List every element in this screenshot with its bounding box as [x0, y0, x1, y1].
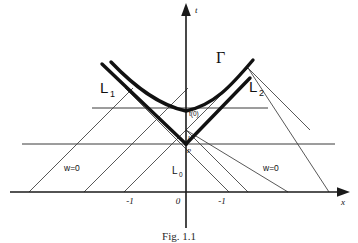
gamma-curve: [111, 60, 253, 111]
t-axis-arrowhead: [181, 3, 191, 16]
p-label: P: [186, 147, 191, 154]
tick-label-origin: 0: [176, 196, 181, 206]
l0-label-subscript: 0: [179, 171, 183, 178]
figure-caption: Fig. 1.1: [162, 230, 196, 242]
gamma-label: Γ: [216, 49, 225, 66]
axes: [10, 3, 350, 228]
characteristic-line-falling-4: [248, 68, 329, 192]
x-axis-arrowhead: [337, 187, 350, 197]
t0-label: t(0): [189, 110, 199, 118]
l2-label-group: L 2: [249, 78, 264, 98]
t-axis-label: t: [195, 5, 198, 15]
l1-label-group: L 1: [100, 79, 115, 99]
characteristic-line-falling-2: [186, 130, 248, 192]
l2-label: L: [249, 78, 257, 95]
figure-canvas: t x -1 0 -1 Γ L 1 L 2 L 0 t(0) 1 P w=0 w…: [0, 0, 358, 243]
l0-label-group: L 0: [172, 165, 183, 178]
l1-label: L: [100, 79, 108, 96]
figure-container: t x -1 0 -1 Γ L 1 L 2 L 0 t(0) 1 P w=0 w…: [0, 0, 358, 243]
characteristic-line-falling-1: [125, 88, 229, 192]
one-label: 1: [187, 134, 191, 142]
tick-label-right: -1: [218, 196, 226, 206]
characteristic-line-rising-1: [29, 88, 133, 192]
x-axis-label: x: [340, 197, 345, 207]
region-label-left: w=0: [63, 163, 80, 173]
l0-label: L: [172, 165, 178, 176]
gamma-label-group: Γ: [216, 49, 225, 66]
characteristic-line-falling-5: [186, 130, 288, 192]
region-label-right: w=0: [262, 163, 279, 173]
point-p-marker: [184, 142, 188, 146]
l1-label-subscript: 1: [110, 89, 115, 99]
l2-label-subscript: 2: [259, 88, 264, 98]
characteristic-line-rising-2: [84, 88, 188, 192]
tick-label-left: -1: [126, 196, 134, 206]
